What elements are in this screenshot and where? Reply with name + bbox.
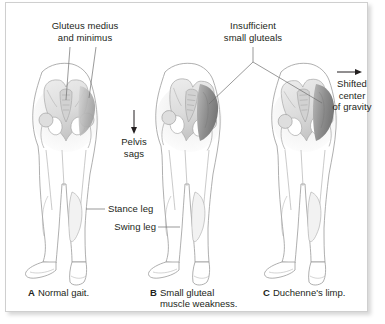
- caption-b-text: Small gluteal muscle weakness.: [160, 287, 238, 310]
- leader-insufficient-to-b: [209, 62, 253, 104]
- label-insufficient-small-gluteals: Insufficient small gluteals: [208, 20, 298, 43]
- panel-b-figure: [148, 63, 222, 285]
- caption-a: A Normal gait.: [28, 275, 138, 310]
- label-shifted-center-of-gravity: Shifted center of gravity: [326, 78, 378, 113]
- caption-b: B Small gluteal muscle weakness.: [150, 275, 260, 321]
- caption-c: C Duchenne's limp.: [263, 275, 373, 310]
- caption-c-text: Duchenne's limp.: [273, 287, 346, 299]
- shifted-cog-arrow: [337, 69, 362, 75]
- pelvis-sags-arrow: [131, 110, 137, 134]
- label-stance-leg: Stance leg: [108, 203, 168, 215]
- caption-a-letter: A: [28, 287, 35, 299]
- label-swing-leg: Swing leg: [96, 221, 156, 233]
- medical-illustration-figure: Gluteus medius and minimus Insufficient …: [0, 0, 385, 324]
- caption-a-text: Normal gait.: [38, 287, 89, 299]
- label-pelvis-sags: Pelvis sags: [114, 136, 154, 159]
- caption-b-letter: B: [150, 287, 157, 299]
- label-gluteus-medius-minimus: Gluteus medius and minimus: [40, 20, 130, 43]
- caption-c-letter: C: [263, 287, 270, 299]
- panel-a-figure: [25, 63, 99, 285]
